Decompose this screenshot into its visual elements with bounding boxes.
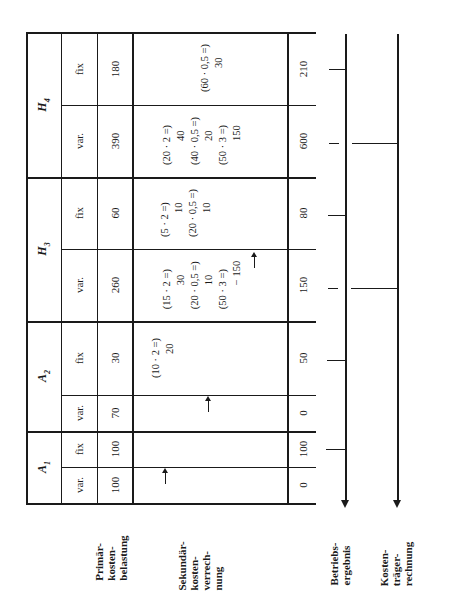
header-a1: A1: [36, 461, 51, 473]
type-label: fix: [74, 207, 85, 219]
secondary-allocation: (60 · 0,5 =)30: [198, 44, 226, 92]
flow-stub: [352, 143, 398, 144]
flow-line-kostentraeger: [397, 34, 399, 504]
grid-line: [61, 395, 316, 396]
result-value: 150: [298, 277, 309, 294]
header-a2: A2: [36, 370, 51, 382]
secondary-allocation: (10 · 2 =)20: [149, 338, 177, 378]
result-value: 80: [298, 208, 309, 219]
arrow-down-icon: [341, 500, 349, 508]
primary-cost: 60: [110, 208, 121, 219]
secondary-allocation: (20 · 2 =)40 (40 · 0,5 =)20 (50 · 3 =)15…: [160, 117, 244, 165]
secondary-allocation: (5 · 2 =)10 (20 · 0,5 =)10: [158, 189, 214, 237]
grid-line: [97, 32, 98, 504]
row-label-secondary: Sekundär- kosten- verrech- nung: [176, 541, 224, 590]
type-label: var.: [74, 133, 85, 149]
type-label: fix: [74, 352, 85, 364]
row-label-primary: Primär- kosten- belastung: [93, 535, 129, 580]
grid-line: [132, 32, 134, 504]
type-label: var.: [74, 405, 85, 421]
flow-stub: [328, 215, 346, 216]
result-value: 0: [298, 410, 309, 416]
primary-cost: 390: [110, 133, 121, 150]
grid-line: [26, 32, 28, 504]
grid-line: [26, 177, 316, 179]
grid-line: [61, 32, 62, 504]
primary-cost: 100: [110, 477, 121, 494]
type-label: fix: [74, 443, 85, 455]
secondary-allocation: (15 · 2 =)30 (20 · 0,5 =)10 (50 · 3 =)− …: [160, 261, 244, 309]
flow-stub: [351, 288, 398, 289]
label-kostentraegerrechnung: Kosten- träger- rechnung: [378, 542, 414, 586]
result-value: 600: [298, 133, 309, 150]
header-h3: H3: [36, 242, 51, 255]
grid-line: [26, 431, 316, 433]
primary-cost: 180: [110, 61, 121, 78]
result-value: 50: [298, 353, 309, 364]
arrow-down-icon: [393, 500, 401, 508]
flow-stub: [329, 143, 339, 144]
flow-stub: [328, 288, 338, 289]
grid-line: [61, 467, 316, 468]
result-value: 210: [298, 61, 309, 78]
result-value: 0: [298, 482, 309, 488]
flow-line-betriebsergebnis: [345, 34, 347, 504]
type-label: var.: [74, 477, 85, 493]
arrow-up-icon: [208, 400, 209, 412]
flow-stub: [326, 449, 346, 450]
grid-line: [26, 32, 316, 34]
grid-line: [26, 321, 316, 323]
result-value: 100: [298, 441, 309, 458]
primary-cost: 100: [110, 441, 121, 458]
arrow-up-icon: [165, 472, 166, 484]
header-h4: H4: [36, 98, 51, 111]
flow-stub: [329, 69, 346, 70]
arrow-up-icon: [254, 256, 255, 268]
label-betriebsergebnis: Betriebs- ergebnis: [328, 543, 352, 586]
type-label: fix: [74, 63, 85, 75]
primary-cost: 70: [110, 408, 121, 419]
grid-line: [61, 249, 316, 250]
grid-line: [61, 105, 316, 106]
primary-cost: 30: [110, 353, 121, 364]
grid-line: [287, 32, 289, 504]
grid-line: [26, 503, 316, 505]
primary-cost: 260: [110, 277, 121, 294]
type-label: var.: [74, 277, 85, 293]
flow-stub: [327, 360, 346, 361]
